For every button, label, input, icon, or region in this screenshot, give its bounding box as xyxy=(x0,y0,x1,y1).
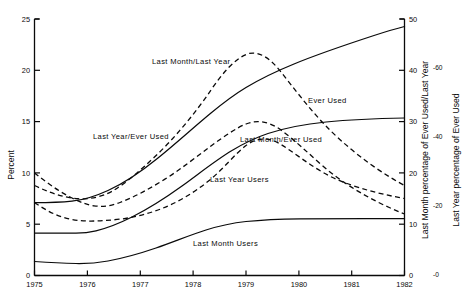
series-label-last-month-last-year: Last Month/Last Year xyxy=(152,57,230,66)
right-outer-ticklabel-60: -60 xyxy=(433,64,443,71)
left-ticklabel-5: 5 xyxy=(26,220,30,229)
right-inner-ticklabel-30: 30 xyxy=(409,117,417,126)
x-ticklabel-1977: 1977 xyxy=(132,280,148,289)
right-inner-ticklabel-10: 10 xyxy=(409,220,417,229)
x-ticklabel-1975: 1975 xyxy=(26,280,42,289)
right-outer-ticklabel-40: -40 xyxy=(433,133,443,140)
x-ticklabel-1981: 1981 xyxy=(343,280,359,289)
left-axis: 0 5 10 15 20 25 Percent xyxy=(6,15,40,280)
left-ticklabel-15: 15 xyxy=(22,117,30,126)
left-axis-title: Percent xyxy=(6,150,16,180)
x-axis: 1975 1976 1977 1978 1979 1980 1981 1982 xyxy=(26,271,412,290)
x-ticklabel-1978: 1978 xyxy=(185,280,201,289)
right-outer-ticklabel-0: -0 xyxy=(433,271,439,278)
x-ticklabel-1982: 1982 xyxy=(396,280,412,289)
right-outer-axis: -0 -20 -40 -60 Last Year percentage of E… xyxy=(433,64,461,278)
series-label-last-month-users: Last Month Users xyxy=(193,239,258,248)
right-inner-ticklabel-40: 40 xyxy=(409,66,417,75)
right-outer-ticklabel-20: -20 xyxy=(433,202,443,209)
left-ticklabel-0: 0 xyxy=(26,271,30,280)
series-label-last-year-ever-used: Last Year/Ever Used xyxy=(93,132,169,141)
x-ticklabel-1980: 1980 xyxy=(291,280,307,289)
right-inner-ticklabel-20: 20 xyxy=(409,169,417,178)
right-inner-axis-title: Last Month percentage of Ever Used/Last … xyxy=(420,61,430,239)
chart-svg: 0 5 10 15 20 25 Percent 1975 1976 1977 1… xyxy=(0,0,473,300)
right-outer-axis-title: Last Year percentage of Ever Used xyxy=(451,93,461,227)
x-ticklabel-1979: 1979 xyxy=(238,280,254,289)
right-inner-ticklabel-50: 50 xyxy=(409,15,417,24)
left-ticklabel-10: 10 xyxy=(22,169,30,178)
left-ticklabel-25: 25 xyxy=(22,15,30,24)
x-ticklabel-1976: 1976 xyxy=(79,280,95,289)
left-ticklabel-20: 20 xyxy=(22,66,30,75)
series-label-last-year-users: Last Year Users xyxy=(210,175,269,184)
right-inner-axis: 0 10 20 30 40 50 Last Month percentage o… xyxy=(399,15,430,280)
chart-figure: 0 5 10 15 20 25 Percent 1975 1976 1977 1… xyxy=(0,0,473,300)
series-label-last-month-ever-used: Last Month/Ever Used xyxy=(240,135,322,144)
series-label-ever-used: Ever Used xyxy=(308,96,347,105)
curve-last-month-ever-used xyxy=(35,122,405,214)
right-inner-ticklabel-0: 0 xyxy=(409,271,413,280)
